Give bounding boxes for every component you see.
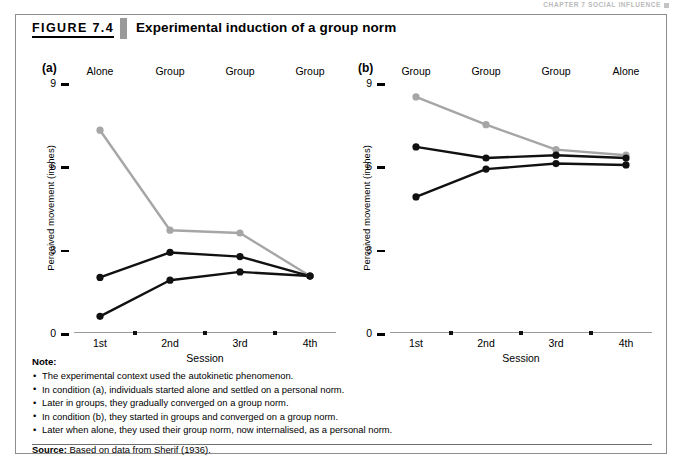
y-axis-tick: 0	[50, 327, 69, 339]
x-axis-tick-label: 4th	[303, 337, 318, 349]
data-point	[236, 229, 243, 236]
column-header: Group	[155, 65, 184, 77]
notes-list: The experimental context used the autoki…	[32, 369, 652, 436]
bottom-divider	[32, 444, 652, 445]
y-axis-tick: 9	[366, 77, 385, 89]
y-axis-tick-dash-icon	[61, 83, 69, 86]
column-header: Alone	[613, 65, 640, 77]
data-point	[412, 193, 419, 200]
y-axis-tick-dash-icon	[61, 333, 69, 336]
x-axis-tick-label: 1st	[409, 337, 423, 349]
data-point	[96, 313, 103, 320]
data-point	[552, 160, 559, 167]
column-header: Group	[541, 65, 570, 77]
column-header: Group	[295, 65, 324, 77]
data-point	[166, 277, 173, 284]
column-header: Group	[401, 65, 430, 77]
figure-title-row: FIGURE 7.4 Experimental induction of a g…	[16, 15, 666, 45]
title-accent-bar	[120, 18, 127, 39]
series-line	[100, 272, 310, 316]
page-title: Experimental induction of a group norm	[136, 20, 396, 35]
data-point	[166, 227, 173, 234]
y-axis-tick-dash-icon	[61, 166, 69, 169]
y-axis-tick-dash-icon	[377, 333, 385, 336]
panel-label-a: (a)	[42, 61, 57, 75]
data-point	[412, 143, 419, 150]
figure-box: FIGURE 7.4 Experimental induction of a g…	[15, 14, 667, 454]
data-point	[96, 274, 103, 281]
y-axis-tick: 6	[50, 160, 69, 172]
series-line	[416, 97, 626, 155]
note-item: In condition (a), individuals started al…	[32, 383, 652, 396]
y-axis-tick-dash-icon	[377, 250, 385, 253]
x-axis-tick-label: 4th	[619, 337, 634, 349]
data-point	[96, 127, 103, 134]
data-point	[412, 93, 419, 100]
x-axis-tick-label: 2nd	[477, 337, 495, 349]
note-item: Later when alone, they used their group …	[32, 423, 652, 436]
y-axis-tick-label: 6	[50, 160, 56, 172]
y-axis-tick: 0	[366, 327, 385, 339]
y-axis-tick-label: 9	[50, 77, 56, 89]
chart-panel-b: (b) Perceived movement (inches) Session …	[346, 61, 656, 351]
x-axis-tick-label: 1st	[93, 337, 107, 349]
data-point	[482, 121, 489, 128]
y-axis-tick-label: 0	[366, 327, 372, 339]
y-axis-tick-dash-icon	[61, 250, 69, 253]
x-axis-tick-label: 3rd	[548, 337, 563, 349]
notes-heading: Note:	[32, 355, 652, 368]
note-item: The experimental context used the autoki…	[32, 369, 652, 382]
plot-area-b: Perceived movement (inches) Session 0369…	[390, 83, 652, 333]
y-axis-tick-dash-icon	[377, 166, 385, 169]
y-axis-tick-label: 3	[50, 244, 56, 256]
source-label: Source:	[32, 444, 67, 455]
y-axis-tick: 6	[366, 160, 385, 172]
column-header: Group	[471, 65, 500, 77]
source-line: Source: Based on data from Sherif (1936)…	[32, 443, 652, 456]
data-point	[622, 154, 629, 161]
source-text: Based on data from Sherif (1936).	[70, 444, 211, 455]
y-axis-tick: 3	[50, 244, 69, 256]
y-axis-tick-label: 9	[366, 77, 372, 89]
data-point	[622, 161, 629, 168]
note-item: In condition (b), they started in groups…	[32, 410, 652, 423]
header-square-icon	[664, 3, 669, 8]
data-point	[236, 253, 243, 260]
y-axis-tick-label: 6	[366, 160, 372, 172]
notes-section: Note: The experimental context used the …	[32, 355, 652, 457]
running-header: CHAPTER 7 SOCIAL INFLUENCE	[543, 1, 669, 8]
plot-area-a: Perceived movement (inches) Session 0369…	[74, 83, 336, 333]
y-axis-tick: 3	[366, 244, 385, 256]
column-header: Alone	[87, 65, 114, 77]
y-axis-tick: 9	[50, 77, 69, 89]
figure-number: FIGURE 7.4	[32, 21, 114, 38]
data-series-group	[74, 83, 336, 333]
x-axis-tick-label: 3rd	[232, 337, 247, 349]
x-axis-tick-label: 2nd	[161, 337, 179, 349]
y-axis-tick-dash-icon	[377, 83, 385, 86]
data-point	[236, 268, 243, 275]
data-point	[482, 166, 489, 173]
data-series-group	[390, 83, 652, 333]
column-header: Group	[225, 65, 254, 77]
y-axis-title-b: Perceived movement (inches)	[361, 128, 372, 288]
data-point	[166, 249, 173, 256]
data-point	[306, 272, 313, 279]
y-axis-title-a: Perceived movement (inches)	[45, 128, 56, 288]
data-point	[552, 152, 559, 159]
y-axis-tick-label: 0	[50, 327, 56, 339]
note-item: Later in groups, they gradually converge…	[32, 396, 652, 409]
chart-panel-a: (a) Perceived movement (inches) Session …	[30, 61, 345, 351]
series-line	[416, 164, 626, 197]
panel-label-b: (b)	[358, 61, 373, 75]
y-axis-tick-label: 3	[366, 244, 372, 256]
running-header-text: CHAPTER 7 SOCIAL INFLUENCE	[543, 1, 661, 8]
data-point	[482, 154, 489, 161]
